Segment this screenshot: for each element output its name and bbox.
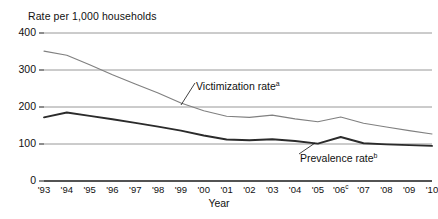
x-axis-tick-label-text: '05 bbox=[312, 184, 324, 195]
victimization-footnote-marker: a bbox=[276, 80, 280, 87]
x-axis-tick-label-text: '07 bbox=[357, 184, 369, 195]
x-axis-tick-label: '07 bbox=[357, 184, 369, 195]
x-axis-tick-label-text: '04 bbox=[289, 184, 301, 195]
x-axis-tick-label-text: '00 bbox=[198, 184, 210, 195]
x-axis-tick-label: '05 bbox=[312, 184, 324, 195]
x-axis-tick-label-text: '08 bbox=[380, 184, 392, 195]
x-axis-tick-label: '06c bbox=[333, 184, 349, 195]
victimization-label-text: Victimization rate bbox=[196, 80, 276, 92]
series-line-victimization bbox=[44, 51, 432, 134]
victimization-leader-line bbox=[181, 83, 195, 105]
prevalence-series-label: Prevalence rateb bbox=[300, 152, 377, 164]
x-axis-tick-label: '08 bbox=[380, 184, 392, 195]
x-axis-tick-label: '02 bbox=[243, 184, 255, 195]
x-axis-tick-label: '01 bbox=[220, 184, 232, 195]
x-axis-tick-label: '03 bbox=[266, 184, 278, 195]
x-axis-tick-label: '99 bbox=[175, 184, 187, 195]
x-axis-tick-label-text: '97 bbox=[129, 184, 141, 195]
x-axis-tick-label: '97 bbox=[129, 184, 141, 195]
chart-container: Rate per 1,000 households 4003002001000 … bbox=[0, 0, 438, 219]
x-axis-title: Year bbox=[0, 197, 438, 209]
x-axis-tick-label-text: '01 bbox=[220, 184, 232, 195]
x-axis-tick-label-text: '95 bbox=[83, 184, 95, 195]
prevalence-label-text: Prevalence rate bbox=[300, 152, 374, 164]
y-axis-tick-label: 200 bbox=[4, 100, 36, 112]
x-axis-tick-label-text: '94 bbox=[61, 184, 73, 195]
x-axis-tick-label: '09 bbox=[403, 184, 415, 195]
y-axis-tick-label: 400 bbox=[4, 26, 36, 38]
x-axis-tick-label: '04 bbox=[289, 184, 301, 195]
series-line-prevalence bbox=[44, 113, 432, 146]
x-axis-tick-label: '00 bbox=[198, 184, 210, 195]
x-axis-tick-label: '94 bbox=[61, 184, 73, 195]
x-axis-tick-label: '93 bbox=[38, 184, 50, 195]
series-lines bbox=[44, 51, 432, 146]
x-axis-tick-label-text: '09 bbox=[403, 184, 415, 195]
x-axis-tick-label-text: '93 bbox=[38, 184, 50, 195]
x-axis-tick-label: '95 bbox=[83, 184, 95, 195]
x-axis-tick-footnote-marker: c bbox=[345, 183, 348, 190]
y-axis-tick-label: 0 bbox=[4, 174, 36, 186]
x-axis-tick-label-text: '10 bbox=[426, 184, 438, 195]
x-axis-tick-label-text: '03 bbox=[266, 184, 278, 195]
x-axis-tick-label: '98 bbox=[152, 184, 164, 195]
prevalence-footnote-marker: b bbox=[374, 152, 378, 159]
x-axis-tick-label-text: '06 bbox=[333, 184, 345, 195]
y-axis-tick-label: 300 bbox=[4, 63, 36, 75]
x-axis-tick-label: '10 bbox=[426, 184, 438, 195]
victimization-series-label: Victimization ratea bbox=[196, 80, 280, 92]
x-axis-tick-label-text: '96 bbox=[106, 184, 118, 195]
y-axis-tick-label: 100 bbox=[4, 137, 36, 149]
x-axis-tick-label: '96 bbox=[106, 184, 118, 195]
x-axis-tick-label-text: '02 bbox=[243, 184, 255, 195]
x-axis-tick-label-text: '98 bbox=[152, 184, 164, 195]
x-axis-tick-label-text: '99 bbox=[175, 184, 187, 195]
